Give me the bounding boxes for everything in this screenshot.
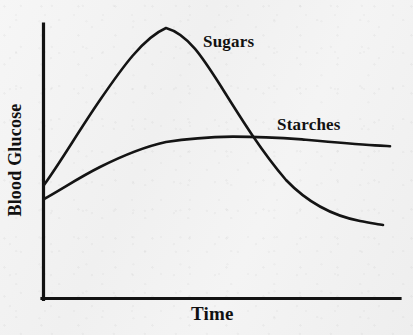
series-label-sugars: Sugars	[203, 32, 254, 52]
y-axis-label: Blood Glucose	[5, 103, 26, 216]
x-axis-label: Time	[191, 303, 234, 325]
series-label-starches: Starches	[277, 115, 341, 135]
chart-figure: Sugars Starches Time Blood Glucose	[0, 0, 413, 335]
starches-curve	[44, 137, 390, 199]
